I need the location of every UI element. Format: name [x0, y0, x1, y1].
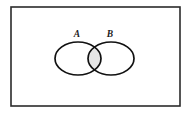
set-a-label: A — [73, 29, 80, 39]
venn-diagram-canvas: A B — [0, 0, 192, 115]
venn-diagram-figure: A B — [0, 0, 192, 115]
set-b-label: B — [106, 29, 113, 39]
